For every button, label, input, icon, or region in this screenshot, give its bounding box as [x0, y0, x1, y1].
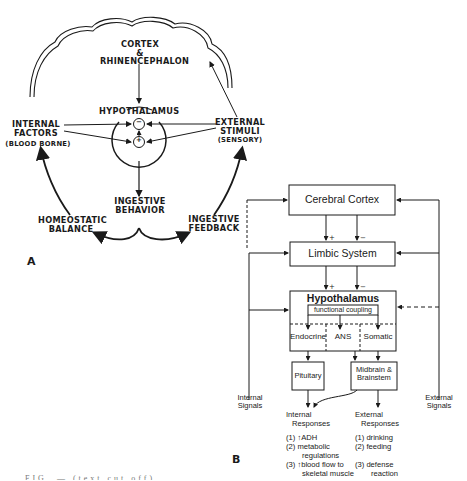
ingestive-behavior-label: INGESTIVE BEHAVIOR — [110, 197, 170, 214]
hypothalamus-box-label: Hypothalamus — [290, 293, 396, 304]
midbrain-brainstem-label: Midbrain & Brainstem — [351, 366, 397, 382]
figure-caption-cutoff: FIG. — (text cut off) — [25, 474, 445, 480]
internal-responses-title-line-2: Responses — [286, 420, 330, 429]
figure: CORTEX & RHINENCEPHALON HYPOTHALAMUS − +… — [0, 0, 467, 481]
internal-responses-title: Internal Responses — [286, 411, 330, 429]
cerebral-cortex-label: Cerebral Cortex — [289, 194, 395, 205]
external-signals-line-2: Signals — [421, 402, 457, 410]
hypothalamus-label: HYPOTHALAMUS — [99, 107, 179, 116]
midbrain-line-2: Brainstem — [351, 374, 397, 382]
external-signals-label: External Signals — [421, 394, 457, 410]
minus-sign-2: − — [360, 283, 366, 291]
panel-a-label: A — [27, 255, 36, 268]
pituitary-label: Pituitary — [292, 372, 324, 380]
internal-factors-label: INTERNAL FACTORS — [6, 120, 66, 137]
ingestive-feedback-label: INGESTIVE FEEDBACK — [188, 215, 240, 232]
internal-signals-label: Internal Signals — [232, 394, 268, 410]
inhibit-symbol: − — [136, 118, 142, 126]
cortex-line-3: RHINENCEPHALON — [100, 57, 180, 66]
ingestive-feedback-line-2: FEEDBACK — [188, 224, 240, 233]
internal-responses-list: (1) ↑ADH (2) metabolic regulations (3) ↑… — [286, 434, 354, 479]
external-stimuli-line-2: STIMULI — [214, 127, 266, 136]
internal-factors-note: (BLOOD BORNE) — [2, 141, 74, 148]
internal-signals-line-2: Signals — [232, 402, 268, 410]
minus-sign-1: − — [360, 234, 366, 242]
external-stimuli-note: (SENSORY) — [214, 137, 266, 144]
homeostatic-balance-label: HOMEOSTATIC BALANCE — [38, 216, 104, 233]
homeostatic-line-2: BALANCE — [38, 225, 104, 234]
excite-symbol: + — [136, 136, 142, 144]
functional-coupling-label: functional coupling — [308, 306, 378, 313]
external-response-item: (2) feeding — [355, 443, 398, 452]
ingestive-behavior-line-2: BEHAVIOR — [110, 206, 170, 215]
panel-b-label: B — [232, 453, 240, 466]
external-responses-list: (1) drinking (2) feeding (3) defense rea… — [355, 434, 398, 479]
external-responses-title-line-2: Responses — [355, 420, 399, 429]
internal-factors-line-2: FACTORS — [6, 129, 66, 138]
plus-sign-1: + — [329, 234, 335, 242]
ans-label: ANS — [326, 333, 360, 341]
external-stimuli-label: EXTERNAL STIMULI — [214, 118, 266, 135]
plus-sign-2: + — [329, 283, 335, 291]
endocrine-label: Endocrine — [290, 333, 326, 341]
external-responses-title: External Responses — [355, 411, 399, 429]
limbic-system-label: Limbic System — [290, 248, 395, 259]
somatic-label: Somatic — [360, 333, 396, 341]
cortex-rhinencephalon-label: CORTEX & RHINENCEPHALON — [100, 40, 180, 66]
